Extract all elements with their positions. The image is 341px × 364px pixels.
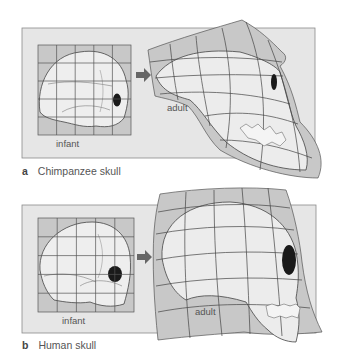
orbit — [113, 94, 121, 107]
caption-b: bHuman skull — [22, 339, 96, 351]
orbit — [271, 74, 277, 90]
caption-text: Chimpanzee skull — [38, 165, 121, 177]
adult-label: adult — [195, 306, 216, 317]
human-diagram — [0, 182, 341, 364]
caption-a: aChimpanzee skull — [22, 165, 121, 177]
caption-letter: a — [22, 165, 28, 177]
figure-human: infant adult bHuman skull — [0, 182, 341, 364]
chimpanzee-diagram — [0, 0, 341, 182]
adult-label: adult — [167, 102, 188, 113]
teeth — [266, 304, 300, 318]
figure-chimpanzee: infant adult aChimpanzee skull — [0, 0, 341, 182]
infant-label: infant — [56, 138, 79, 149]
infant-label: infant — [62, 315, 85, 326]
caption-letter: b — [22, 339, 28, 351]
orbit — [282, 245, 296, 275]
caption-text: Human skull — [38, 339, 96, 351]
